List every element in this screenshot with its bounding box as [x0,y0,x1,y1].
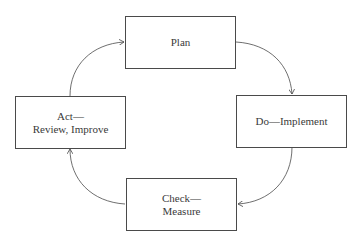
node-do: Do—Implement [236,95,347,148]
node-check: Check— Measure [126,178,237,231]
node-do-label: Do—Implement [255,115,327,128]
arrow-act-to-plan [70,42,124,96]
node-plan-label: Plan [171,36,191,49]
node-act-label-line2: Review, Improve [33,123,109,136]
arrow-plan-to-do [236,42,292,94]
arrow-check-to-act [70,149,125,204]
node-check-label-line2: Measure [163,205,201,218]
node-check-label-line1: Check— [162,192,201,205]
node-plan: Plan [125,16,236,69]
arrow-do-to-check [238,147,292,204]
node-act: Act— Review, Improve [15,96,126,149]
node-act-label-line1: Act— [57,110,84,123]
